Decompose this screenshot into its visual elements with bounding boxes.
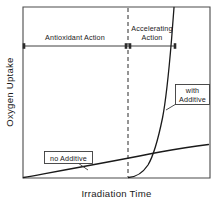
with-additive-label-line2: Additive xyxy=(179,95,206,104)
y-axis-title: Oxygen Uptake xyxy=(4,57,15,126)
with-additive-label-line1: with xyxy=(185,86,199,95)
accelerating-action-label-line1: Accelerating xyxy=(131,24,172,33)
chart-canvas: Antioxidant Action Accelerating Action w… xyxy=(0,0,219,204)
accelerating-action-label-line2: Action xyxy=(142,33,163,42)
with-additive-leader-line xyxy=(166,104,176,110)
oxygen-uptake-chart-figure: Antioxidant Action Accelerating Action w… xyxy=(0,0,219,204)
antioxidant-action-label: Antioxidant Action xyxy=(45,33,105,42)
x-axis-title: Irradiation Time xyxy=(81,188,151,199)
no-additive-label: no Additive xyxy=(50,154,87,163)
